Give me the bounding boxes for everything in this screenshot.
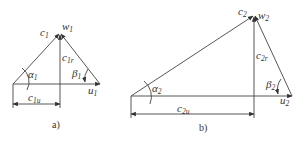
c2r-label: c2r (256, 49, 268, 63)
velocity-triangles-diagram: c1 w1 c1r c1u u1 α1 β1 a) c2 w2 c2r c2u … (0, 0, 305, 144)
caption-a: a) (52, 119, 60, 131)
c1r-label: c1r (62, 51, 74, 65)
w2-label: w2 (258, 9, 269, 23)
c2u-label: c2u (177, 102, 190, 116)
beta2-label: β2 (265, 78, 275, 92)
beta1-arc (85, 69, 88, 82)
alpha2-label: α2 (152, 82, 162, 96)
c1u-label: c1u (28, 91, 41, 105)
c1-label: c1 (40, 26, 49, 40)
c2-label: c2 (238, 5, 247, 19)
caption-b: b) (199, 122, 207, 134)
beta1-label: β1 (71, 67, 81, 81)
alpha1-label: α1 (28, 68, 38, 82)
alpha2-arc (144, 81, 151, 104)
panel-a: c1 w1 c1r c1u u1 α1 β1 a) (13, 20, 100, 131)
w1-label: w1 (62, 20, 73, 34)
u1-label: u1 (88, 84, 97, 98)
panel-b: c2 w2 c2r c2u u2 α2 β2 b) (131, 5, 292, 134)
c2-vector (131, 16, 253, 96)
beta2-arc (277, 79, 281, 94)
